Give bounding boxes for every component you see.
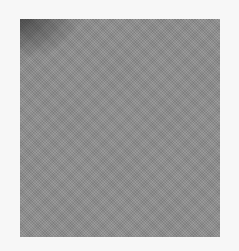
image-canvas [0,0,239,251]
gray-square [20,19,220,237]
